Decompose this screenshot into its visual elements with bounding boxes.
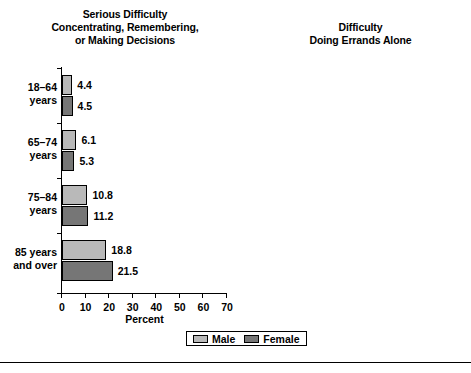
chart-title-errands: Difficulty Doing Errands Alone [250, 21, 471, 47]
bar-value-label: 5.3 [79, 151, 94, 171]
chart-panel-errands: Difficulty Doing Errands Alone 010203040… [250, 0, 471, 340]
y-tick [57, 233, 62, 234]
category-label: 85 yearsand over [0, 246, 57, 272]
bar-female[interactable] [62, 151, 74, 171]
category-label: 65–74years [0, 136, 57, 162]
x-tick-label: 20 [103, 301, 115, 313]
bar-group: 18.821.5 [62, 240, 227, 282]
figure-bar-charts: Serious Difficulty Concentrating, Rememb… [0, 0, 471, 373]
category-label: 75–84years [0, 191, 57, 217]
x-tick [202, 293, 203, 298]
category-label-line-1: 75–84 [0, 191, 57, 204]
legend-label-female: Female [263, 334, 299, 344]
legend-entry-male: Male [193, 334, 235, 344]
x-tick-label: 10 [80, 301, 92, 313]
bar-male[interactable] [62, 75, 72, 95]
bar-value-label: 4.5 [78, 96, 93, 116]
bar-female[interactable] [62, 206, 88, 226]
x-tick [132, 293, 133, 298]
bar-male[interactable] [62, 240, 106, 260]
bar-value-label: 18.8 [111, 240, 131, 260]
x-tick-label: 0 [59, 301, 65, 313]
category-label-line-1: 65–74 [0, 136, 57, 149]
category-label-line-1: 85 years [0, 246, 57, 259]
bar-male[interactable] [62, 185, 87, 205]
legend-label-male: Male [212, 334, 235, 344]
chart-title-line-1: Serious Difficulty [0, 8, 250, 21]
bar-value-label: 10.8 [92, 185, 112, 205]
x-tick [108, 293, 109, 298]
chart-title-line-3: or Making Decisions [0, 34, 250, 47]
bar-value-label: 6.1 [81, 130, 96, 150]
legend-swatch-female-icon [244, 335, 259, 343]
x-tick-label: 50 [174, 301, 186, 313]
x-tick-label: 30 [127, 301, 139, 313]
bar-group: 4.44.5 [62, 75, 227, 117]
bar-value-label: 4.4 [77, 75, 92, 95]
chart-title-line-2: Doing Errands Alone [250, 34, 471, 47]
y-tick [57, 293, 62, 294]
bar-group: 10.811.2 [62, 185, 227, 227]
category-label: 18–64years [0, 81, 57, 107]
y-tick [57, 68, 62, 69]
legend: Male Female [186, 331, 307, 346]
x-tick-label: 70 [221, 301, 233, 313]
category-label-line-2: years [0, 149, 57, 162]
category-label-line-2: and over [0, 259, 57, 272]
x-tick-label: 40 [150, 301, 162, 313]
bar-female[interactable] [62, 261, 113, 281]
bar-group: 6.15.3 [62, 130, 227, 172]
y-tick [57, 123, 62, 124]
plot-area-concentrating: 0102030405060704.44.56.15.310.811.218.82… [62, 67, 227, 293]
x-tick [226, 293, 227, 298]
legend-swatch-male-icon [193, 335, 208, 343]
category-label-line-1: 18–64 [0, 81, 57, 94]
bar-value-label: 21.5 [118, 261, 138, 281]
bottom-divider [0, 362, 471, 363]
bar-female[interactable] [62, 96, 73, 116]
x-tick [155, 293, 156, 298]
x-tick [85, 293, 86, 298]
category-label-line-2: years [0, 94, 57, 107]
y-tick [57, 178, 62, 179]
x-axis-label-concentrating: Percent [62, 313, 227, 325]
legend-entry-female: Female [244, 334, 299, 344]
category-label-line-2: years [0, 204, 57, 217]
x-tick [179, 293, 180, 298]
chart-title-concentrating: Serious Difficulty Concentrating, Rememb… [0, 8, 250, 47]
x-tick-label: 60 [198, 301, 210, 313]
chart-panel-concentrating: Serious Difficulty Concentrating, Rememb… [0, 0, 250, 340]
chart-title-line-1: Difficulty [250, 21, 471, 34]
bar-value-label: 11.2 [93, 206, 113, 226]
chart-title-line-2: Concentrating, Remembering, [0, 21, 250, 34]
bar-male[interactable] [62, 130, 76, 150]
